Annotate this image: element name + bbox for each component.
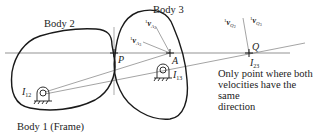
velocity-vector-a2: [156, 27, 170, 53]
ground-pivot-i13-icon: [154, 64, 172, 81]
annotation-text: Only point where both velocities have th…: [218, 68, 313, 112]
line-i12-to-a: [45, 53, 170, 92]
annotation-line-1: Only point where both: [218, 68, 313, 79]
velocity-vector-a3: [143, 42, 170, 53]
body-3-label: Body 3: [153, 4, 184, 15]
velocity-a2-label: 1vA2: [145, 19, 156, 30]
point-p-marker: [110, 49, 118, 57]
i13-label: I13: [172, 69, 182, 81]
annotation-line-3: direction: [218, 101, 313, 112]
velocity-q3-label: 1vQ3: [250, 16, 262, 27]
point-q-label: Q: [252, 41, 260, 52]
point-a-label: A: [171, 55, 179, 66]
i12-label: I12: [21, 86, 31, 98]
point-p-label: P: [117, 54, 124, 65]
velocity-q2-label: 1vQ2: [224, 18, 236, 29]
velocity-vector-q: [243, 18, 249, 53]
annotation-line-2: velocities have the same: [218, 79, 313, 101]
body-2-label: Body 2: [44, 18, 75, 29]
ground-pivot-i12-icon: [34, 87, 52, 104]
velocity-a3-label: 1vA3: [130, 36, 141, 47]
body-1-label: Body 1 (Frame): [17, 121, 85, 133]
